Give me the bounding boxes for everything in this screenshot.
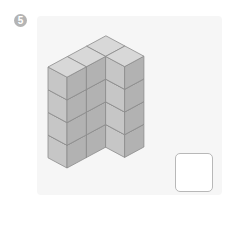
cube-group [48, 36, 144, 168]
answer-input-box[interactable] [175, 153, 213, 192]
